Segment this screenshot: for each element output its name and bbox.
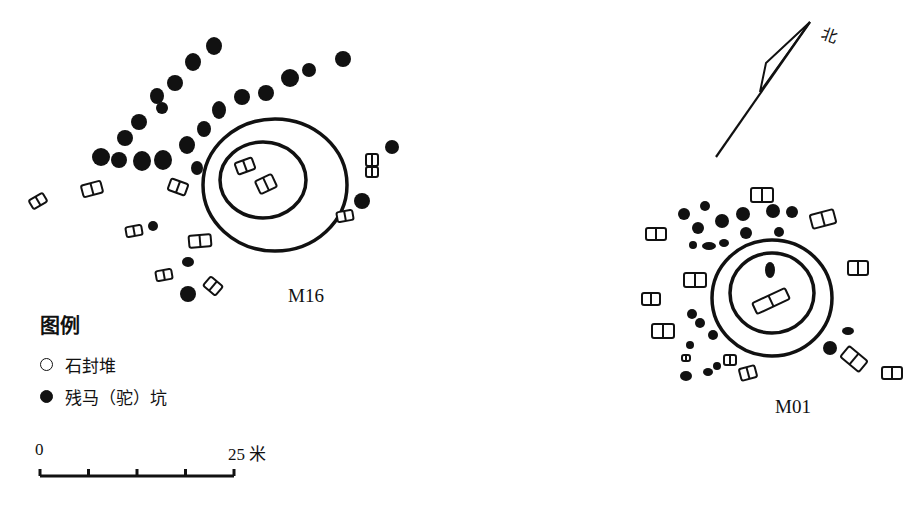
horse-pit [180,286,196,302]
stone-mound [684,273,706,287]
horse-pit [92,148,110,166]
horse-pit [385,140,399,154]
stone-mound [840,346,867,372]
stone-mound [751,188,773,202]
horse-pit [702,242,716,250]
horse-pit [766,204,780,218]
stone-mound [724,355,736,365]
north-arrow-head [760,22,810,92]
stone-mound [652,324,674,338]
legend-label: 残马（驼）坑 [65,384,167,409]
stone-mound [646,228,666,240]
horse-pit [131,114,147,130]
horse-pit [150,88,164,104]
stone-mound [167,178,188,195]
horse-pit [212,101,226,119]
horse-pit [719,239,729,247]
stone-mound [739,365,758,381]
stone-mound [882,367,902,379]
stone-mound [848,261,868,275]
horse-pit [111,152,127,168]
horse-pit [117,130,133,146]
horse-pit [191,161,203,175]
horse-pit [335,51,351,67]
horse-pit [740,227,752,239]
stone-mound [125,225,142,238]
stone-mound [682,355,690,361]
horse-pit [258,85,274,101]
stone-mound [203,276,223,295]
stone-mound [810,209,837,229]
horse-pit [708,330,718,340]
stone-mound [752,288,790,314]
stone-mound [155,269,172,282]
open-circle-icon [40,358,53,371]
horse-pit [302,63,316,77]
stone-mound [642,293,660,305]
horse-pit [715,214,729,228]
horse-pit [774,227,784,237]
stone-mound [336,210,353,223]
horse-pit [703,368,713,376]
stone-mound [81,181,103,198]
site-label-m01: M01 [775,396,811,418]
horse-pit [687,309,697,319]
horse-pit [695,318,705,328]
scale-start-label: 0 [35,440,44,460]
horse-pit [678,208,690,220]
site-plan-canvas [0,0,923,520]
legend-title: 图例 [40,310,80,339]
stone-mound [366,167,378,177]
stone-mound [366,154,378,166]
horse-pit [686,341,694,349]
horse-pit [206,37,222,55]
horse-pit [842,327,854,335]
horse-pit [823,341,837,355]
horse-pit [689,241,697,249]
horse-pit [713,362,721,370]
stone-mound [29,193,48,210]
horse-pit [179,136,195,154]
horse-pit [354,193,370,209]
horse-pit [185,53,201,71]
horse-pit [154,150,172,170]
stone-mound [234,157,255,174]
site-label-m16: M16 [288,285,324,307]
legend-label: 石封堆 [65,352,116,377]
stone-mound [189,234,212,248]
legend-item-stone-mound: 石封堆 [40,352,116,377]
horse-pit [182,257,194,267]
scale-end-label: 25 米 [228,440,266,465]
horse-pit [197,121,211,137]
horse-pit [786,206,798,218]
horse-pit [281,69,299,87]
horse-pit [692,222,704,234]
horse-pit [167,75,183,91]
horse-pit [700,201,710,211]
stone-mound [255,174,277,194]
horse-pit [156,102,168,114]
horse-pit [133,151,151,171]
horse-pit [234,89,250,105]
horse-pit [148,221,158,231]
horse-pit [680,371,692,381]
filled-circle-icon [40,390,53,403]
legend-item-horse-pit: 残马（驼）坑 [40,384,167,409]
horse-pit [736,207,750,221]
horse-pit [765,262,775,278]
